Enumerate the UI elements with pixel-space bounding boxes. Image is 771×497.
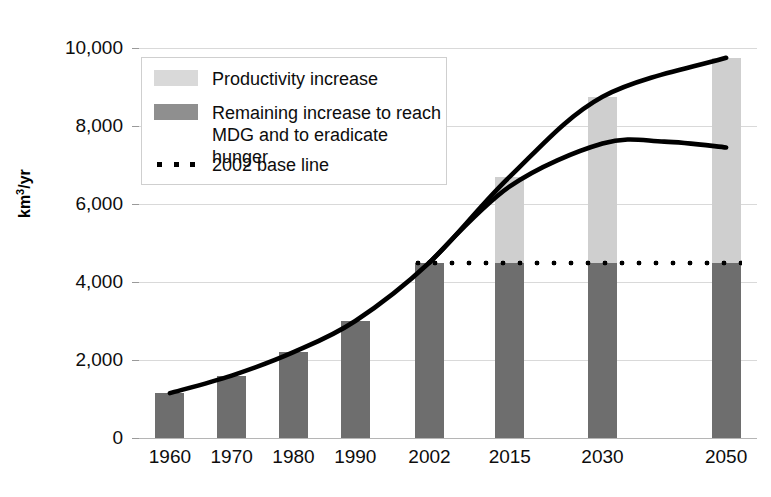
legend-label-base-line: 2002 base line (212, 154, 329, 176)
legend-label-productivity-increase: Productivity increase (212, 68, 378, 90)
x-tick-label: 2015 (470, 446, 550, 468)
legend-dotted-line-icon (154, 156, 198, 172)
lower-trend-curve (429, 139, 726, 262)
chart-legend: Productivity increase Remaining increase… (141, 57, 447, 185)
chart-container: km3/yr 02,0004,0006,0008,00010,000 19601… (0, 0, 771, 497)
x-tick-label: 1990 (315, 446, 395, 468)
legend-swatch-light-icon (154, 70, 198, 86)
legend-item-base-line: 2002 base line (154, 154, 329, 176)
legend-swatch-dark-icon (154, 104, 198, 120)
x-tick-label: 2002 (389, 446, 469, 468)
x-tick-label: 2050 (686, 446, 766, 468)
x-tick-label: 2030 (563, 446, 643, 468)
legend-item-productivity-increase: Productivity increase (154, 68, 378, 90)
